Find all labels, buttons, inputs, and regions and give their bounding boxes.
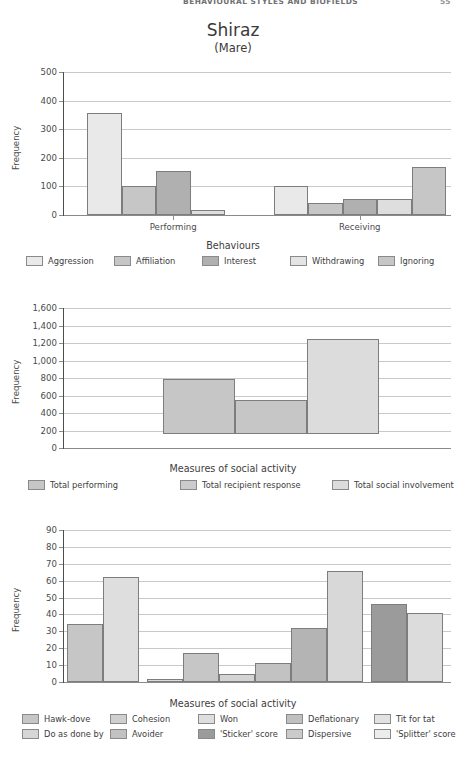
bar	[122, 186, 157, 215]
legend-label: Avoider	[132, 729, 163, 739]
legend-item: Deflationary	[286, 714, 359, 724]
y-axis-label: 0	[17, 678, 57, 686]
legend-label: Hawk-dove	[44, 714, 90, 724]
legend-item: Total performing	[28, 480, 118, 490]
legend-item: Avoider	[110, 729, 163, 739]
chart-social-activity-totals: 02004006008001,0001,2001,4001,600Frequen…	[0, 300, 466, 495]
y-axis-title: Frequency	[11, 360, 21, 404]
legend-swatch	[378, 256, 395, 266]
legend-item: 'Sticker' score	[198, 729, 278, 739]
chart-social-activity-measures: 0102030405060708090FrequencyMeasures of …	[0, 520, 466, 774]
figure-subtitle: (Mare)	[0, 41, 466, 55]
bar	[377, 199, 412, 215]
bar	[274, 186, 309, 215]
legend-label: Aggression	[48, 256, 94, 266]
legend-swatch	[290, 256, 307, 266]
legend-label: Total performing	[50, 480, 118, 490]
y-axis-label: 90	[17, 526, 57, 534]
gridline	[63, 448, 451, 449]
legend-label: Won	[220, 714, 238, 724]
y-axis-label: 300	[17, 125, 57, 133]
bar	[219, 674, 255, 682]
y-axis-label: 70	[17, 560, 57, 568]
bar	[371, 604, 407, 682]
y-axis-label: 50	[17, 594, 57, 602]
y-axis-label: 200	[17, 154, 57, 162]
y-axis-line	[63, 308, 64, 449]
chart2-legend: Total performingTotal recipient response…	[0, 300, 466, 301]
y-axis-label: 100	[17, 182, 57, 190]
y-axis-label: 80	[17, 543, 57, 551]
y-axis-label: 800	[17, 374, 57, 382]
bar	[308, 203, 343, 215]
y-axis-label: 10	[17, 661, 57, 669]
gridline	[63, 361, 451, 362]
legend-label: Tit for tat	[396, 714, 435, 724]
gridline	[63, 101, 451, 102]
bar	[307, 339, 379, 434]
legend-item: 'Splitter' score	[374, 729, 456, 739]
gridline	[63, 343, 451, 344]
x-axis-category: Performing	[123, 222, 223, 232]
y-axis-label: 40	[17, 610, 57, 618]
chart1-legend: AggressionAffiliationInterestWithdrawing…	[0, 60, 466, 61]
gridline	[63, 378, 451, 379]
bar	[235, 400, 307, 434]
legend-swatch	[374, 714, 391, 724]
legend-label: 'Sticker' score	[220, 729, 278, 739]
legend-item: Ignoring	[378, 256, 434, 266]
bar	[67, 624, 103, 682]
legend-swatch	[28, 480, 45, 490]
legend-label: Total recipient response	[202, 480, 301, 490]
page-number: 55	[440, 0, 450, 6]
legend-swatch	[374, 729, 391, 739]
legend-item: Cohesion	[110, 714, 170, 724]
legend-label: Dispersive	[308, 729, 351, 739]
gridline	[63, 72, 451, 73]
y-axis-line	[63, 530, 64, 683]
bar	[407, 613, 443, 682]
legend-item: Dispersive	[286, 729, 351, 739]
bar	[327, 571, 363, 682]
legend-item: Total social involvement	[332, 480, 454, 490]
legend-swatch	[114, 256, 131, 266]
legend-item: Withdrawing	[290, 256, 364, 266]
legend-swatch	[286, 729, 303, 739]
legend-item: Aggression	[26, 256, 94, 266]
legend-label: Interest	[224, 256, 256, 266]
bar	[156, 171, 191, 215]
gridline	[63, 308, 451, 309]
legend-swatch	[26, 256, 43, 266]
legend-item: Hawk-dove	[22, 714, 90, 724]
legend-label: Do as done by	[44, 729, 104, 739]
bar	[147, 679, 183, 682]
x-axis-tick	[173, 215, 174, 220]
x-axis-title: Measures of social activity	[0, 463, 466, 474]
legend-swatch	[286, 714, 303, 724]
legend-item: Won	[198, 714, 238, 724]
y-axis-line	[63, 72, 64, 216]
legend-swatch	[198, 714, 215, 724]
x-axis-category: Receiving	[310, 222, 410, 232]
legend-label: Affiliation	[136, 256, 175, 266]
y-axis-label: 60	[17, 577, 57, 585]
gridline	[63, 530, 451, 531]
gridline	[63, 682, 451, 683]
gridline	[63, 547, 451, 548]
bar	[343, 199, 378, 215]
y-axis-label: 400	[17, 409, 57, 417]
bar	[87, 113, 122, 215]
legend-label: Cohesion	[132, 714, 170, 724]
legend-label: Ignoring	[400, 256, 434, 266]
legend-item: Affiliation	[114, 256, 175, 266]
legend-swatch	[22, 714, 39, 724]
y-axis-label: 20	[17, 644, 57, 652]
y-axis-label: 0	[17, 211, 57, 219]
bar	[291, 628, 327, 682]
y-axis-label: 600	[17, 392, 57, 400]
bar	[183, 653, 219, 682]
legend-item: Do as done by	[22, 729, 104, 739]
x-axis-title: Behaviours	[0, 240, 466, 251]
bar	[163, 379, 235, 434]
legend-swatch	[198, 729, 215, 739]
